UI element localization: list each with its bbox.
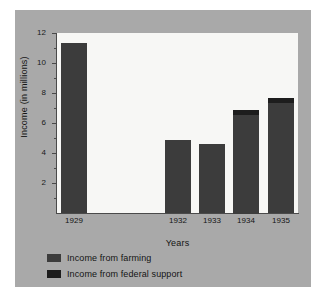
y-tick-minor <box>54 138 57 139</box>
y-tick-major <box>52 63 57 64</box>
bar-segment-farming <box>233 115 259 214</box>
x-tick-label-1935: 1935 <box>261 216 301 225</box>
bar-1933[interactable] <box>199 144 225 213</box>
y-tick-minor <box>54 198 57 199</box>
bar-segment-farming <box>165 140 191 213</box>
y-tick-major <box>52 33 57 34</box>
x-tick-label-1929: 1929 <box>54 216 94 225</box>
bar-segment-farming <box>199 144 225 213</box>
chart-legend: Income from farming Income from federal … <box>47 251 182 283</box>
x-axis-title: Years <box>57 238 298 248</box>
legend-item-federal-support[interactable]: Income from federal support <box>47 267 182 280</box>
legend-swatch-federal-support <box>47 270 61 278</box>
bar-1934[interactable] <box>233 110 259 213</box>
chart-figure: 24681012 19291932193319341935 Income (in… <box>0 0 333 303</box>
y-tick-minor <box>54 168 57 169</box>
y-tick-major <box>52 183 57 184</box>
y-tick-major <box>52 93 57 94</box>
bar-1932[interactable] <box>165 140 191 213</box>
y-tick-minor <box>54 48 57 49</box>
bar-1929[interactable] <box>61 43 87 213</box>
y-tick-label: 2 <box>24 179 46 187</box>
y-tick-major <box>52 123 57 124</box>
bar-1935[interactable] <box>268 98 294 213</box>
legend-label-farming: Income from farming <box>67 253 151 263</box>
bar-segment-farming <box>268 103 294 213</box>
legend-label-federal-support: Income from federal support <box>67 269 182 279</box>
y-axis-title: Income (in millions) <box>19 27 29 167</box>
legend-swatch-farming <box>47 254 61 262</box>
legend-item-farming[interactable]: Income from farming <box>47 251 182 264</box>
y-tick-minor <box>54 78 57 79</box>
bar-segment-farming <box>61 43 87 213</box>
x-axis-line <box>56 213 299 214</box>
y-tick-minor <box>54 108 57 109</box>
x-tick-label-1934: 1934 <box>226 216 266 225</box>
y-tick-major <box>52 153 57 154</box>
